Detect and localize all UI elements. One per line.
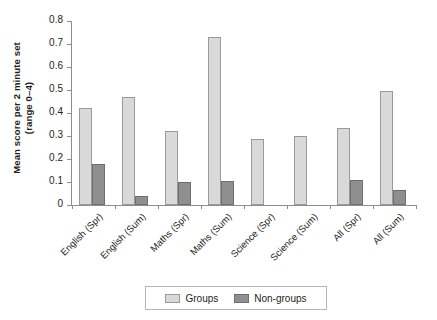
legend-swatch-nongroups-icon (234, 294, 249, 303)
y-axis-tick-label: 0.8 (49, 14, 63, 25)
y-axis-tick: 0.5 (67, 90, 71, 91)
y-axis-title-line-1: Mean score per 2 minute set (11, 42, 23, 174)
bar-chart: Mean score per 2 minute set (range 0–4) … (0, 0, 437, 320)
y-axis-title-line-2: (range 0–4) (23, 42, 35, 174)
plot-area: 00.10.20.30.40.50.60.70.8 (71, 21, 416, 205)
legend-item-groups: Groups (165, 293, 218, 304)
y-axis-tick: 0.2 (67, 159, 71, 160)
y-axis-tick: 0.7 (67, 44, 71, 45)
x-axis-labels: English (Spr)English (Sum)Maths (Spr)Mat… (71, 205, 437, 285)
legend-label-nongroups: Non-groups (254, 293, 306, 304)
y-axis-tick: 0.8 (67, 21, 71, 22)
legend: Groups Non-groups (145, 286, 327, 310)
y-axis-tick: 0.4 (67, 113, 71, 114)
y-axis-tick-label: 0.1 (49, 175, 63, 186)
y-axis-tick-label: 0.5 (49, 83, 63, 94)
y-axis-tick-label: 0.7 (49, 37, 63, 48)
legend-swatch-groups-icon (165, 294, 180, 303)
y-axis-tick-label: 0 (57, 198, 63, 209)
y-axis-tick: 0.1 (67, 182, 71, 183)
y-axis-tick: 0.3 (67, 136, 71, 137)
legend-label-groups: Groups (185, 293, 218, 304)
y-axis-tick-label: 0.2 (49, 152, 63, 163)
y-axis-tick: 0.6 (67, 67, 71, 68)
y-axis-title: Mean score per 2 minute set (range 0–4) (0, 0, 46, 215)
y-axis-tick-label: 0.3 (49, 129, 63, 140)
bar-groups (380, 91, 393, 205)
y-axis-tick-label: 0.4 (49, 106, 63, 117)
bars-layer (72, 21, 416, 205)
bar-nongroups (92, 164, 105, 205)
bar-nongroups (393, 190, 406, 205)
bar-groups (79, 108, 92, 205)
y-axis-tick-label: 0.6 (49, 60, 63, 71)
legend-item-nongroups: Non-groups (234, 293, 306, 304)
